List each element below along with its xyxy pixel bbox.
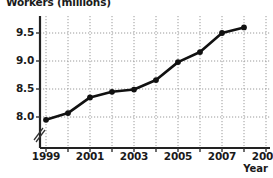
x-tick-label: 2009 bbox=[246, 150, 273, 162]
y-tick-label: 9.5 bbox=[8, 26, 34, 38]
x-tick-label: 2001 bbox=[70, 150, 110, 162]
y-tick-label: 9.0 bbox=[8, 54, 34, 66]
line-chart: Workers (millions) Year 8.08.59.09.5 199… bbox=[0, 0, 273, 178]
horizontal-gridlines bbox=[40, 33, 270, 117]
x-tick-label: 2007 bbox=[202, 150, 242, 162]
y-tick-label: 8.5 bbox=[8, 82, 34, 94]
axis-ticks bbox=[36, 33, 266, 152]
data-series-line bbox=[46, 27, 244, 119]
x-tick-label: 1999 bbox=[26, 150, 66, 162]
x-axis-title: Year bbox=[243, 163, 268, 174]
y-axis-title: Workers (millions) bbox=[6, 0, 111, 8]
x-tick-label: 2005 bbox=[158, 150, 198, 162]
y-tick-label: 8.0 bbox=[8, 110, 34, 122]
x-tick-label: 2003 bbox=[114, 150, 154, 162]
